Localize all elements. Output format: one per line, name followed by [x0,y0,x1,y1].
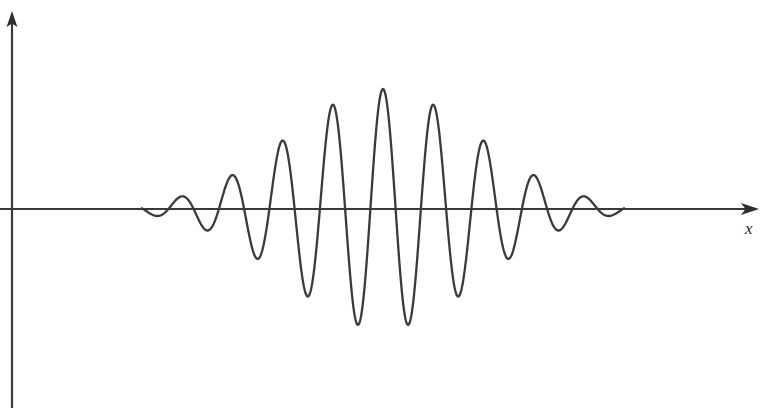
figure-canvas: x [0,0,771,408]
wave-packet-curve [142,89,624,325]
x-axis-label: x [744,219,753,238]
wave-packet-figure: x [0,0,771,408]
